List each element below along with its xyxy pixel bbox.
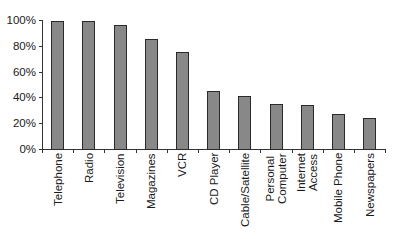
y-tick-label: 100%: [0, 14, 36, 26]
y-tick-label: 0%: [0, 143, 36, 155]
x-tick-label: Telephone: [52, 153, 64, 206]
x-tick: [292, 149, 293, 153]
bar-newspapers: [363, 118, 376, 150]
x-tick-label: PersonalComputer: [264, 154, 288, 205]
y-tick: [39, 72, 43, 73]
bar-magazines: [145, 39, 158, 150]
y-tick-label: 20%: [0, 117, 36, 129]
x-tick-label: InternetAccess: [295, 153, 319, 192]
x-tick: [323, 149, 324, 153]
y-tick-label: 80%: [0, 40, 36, 52]
x-tick: [73, 149, 74, 153]
y-tick: [39, 123, 43, 124]
x-tick: [42, 149, 43, 153]
x-tick-label: CD Player: [208, 153, 220, 205]
x-tick: [260, 149, 261, 153]
bar-cd-player: [207, 91, 220, 150]
x-tick: [104, 149, 105, 153]
x-tick: [167, 149, 168, 153]
bar-telephone: [51, 21, 64, 150]
bar-cable-satellite: [238, 96, 251, 150]
bar-vcr: [176, 52, 189, 150]
y-tick-label: 40%: [0, 91, 36, 103]
bar-personal-computer: [270, 104, 283, 150]
y-tick: [39, 20, 43, 21]
x-tick-label: Magazines: [145, 153, 157, 209]
x-tick: [198, 149, 199, 153]
bar-internet-access: [301, 105, 314, 150]
x-tick-label: Mobile Phone: [332, 153, 344, 223]
x-tick-label: Television: [114, 154, 126, 205]
bar-radio: [82, 21, 95, 150]
x-tick: [354, 149, 355, 153]
y-tick: [39, 97, 43, 98]
bar-chart: 0%20%40%60%80%100% TelephoneRadioTelevis…: [0, 0, 394, 239]
bar-television: [114, 25, 127, 150]
x-tick-label: Cable/Satellite: [239, 153, 251, 227]
x-tick-label: Radio: [83, 153, 95, 183]
y-tick-label: 60%: [0, 66, 36, 78]
x-tick-label: VCR: [176, 153, 188, 177]
y-tick: [39, 46, 43, 47]
bar-mobile-phone: [332, 114, 345, 150]
x-tick: [229, 149, 230, 153]
x-tick: [385, 149, 386, 153]
y-axis: [42, 20, 43, 150]
x-tick-label: Newspapers: [364, 153, 376, 217]
x-tick: [136, 149, 137, 153]
